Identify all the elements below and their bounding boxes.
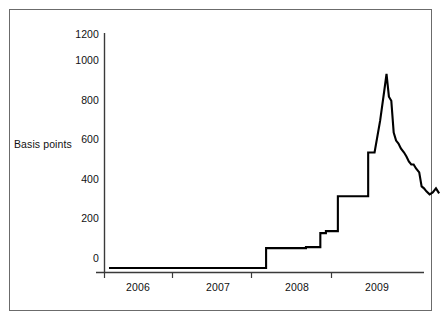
- chart-figure: Basis points 0 200 400 600 800 1000 1200…: [0, 0, 448, 324]
- series-line-basis-points: [109, 74, 439, 268]
- plot-area: [0, 0, 448, 324]
